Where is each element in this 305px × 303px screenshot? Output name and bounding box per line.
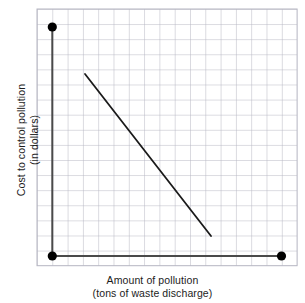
x-axis-label-line2: (tons of waste discharge) xyxy=(0,287,305,300)
plot-canvas xyxy=(0,0,305,303)
y-axis-label-line1: Cost to control pollution xyxy=(15,10,28,270)
grid-lines xyxy=(37,9,297,266)
origin-point xyxy=(48,251,57,260)
x-axis-label-line1: Amount of pollution xyxy=(0,274,305,287)
y-axis-label-container: Cost to control pollution (in dollars) xyxy=(15,10,45,270)
y-axis-label-line2: (in dollars) xyxy=(28,10,41,270)
y-axis-top-point xyxy=(48,22,57,31)
pollution-cost-graph: Amount of pollution (tons of waste disch… xyxy=(0,0,305,303)
x-axis-right-point xyxy=(277,251,286,260)
y-axis-label: Cost to control pollution (in dollars) xyxy=(15,10,41,270)
x-axis-label: Amount of pollution (tons of waste disch… xyxy=(0,274,305,300)
